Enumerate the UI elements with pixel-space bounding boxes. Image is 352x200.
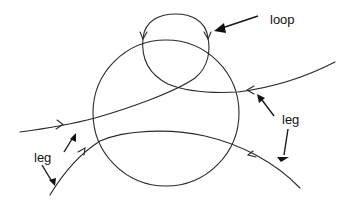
leg-left-label: leg	[34, 150, 51, 165]
leg-right-pointer-down-arrowhead-icon	[277, 157, 289, 162]
loop-pointer-line	[222, 16, 258, 28]
leg-right-pointer-up-line	[262, 100, 274, 116]
upper-left-leg-curve	[20, 38, 209, 132]
leg-right-pointer-down-line	[284, 129, 288, 155]
loop-label: loop	[270, 12, 295, 27]
loop-pointer-arrowhead-icon	[214, 23, 226, 33]
leg-right-label: leg	[282, 112, 299, 127]
leg-left-pointer-down-line	[42, 165, 51, 180]
upper-right-leg-curve	[143, 38, 335, 92]
arrow-upright-icon	[78, 148, 85, 155]
leg-left-pointer-up-line	[64, 139, 72, 152]
diagram-canvas: loop leg leg	[0, 0, 352, 200]
loop-arc	[143, 14, 208, 38]
arrow-right-icon	[56, 120, 63, 129]
circle	[93, 40, 239, 186]
